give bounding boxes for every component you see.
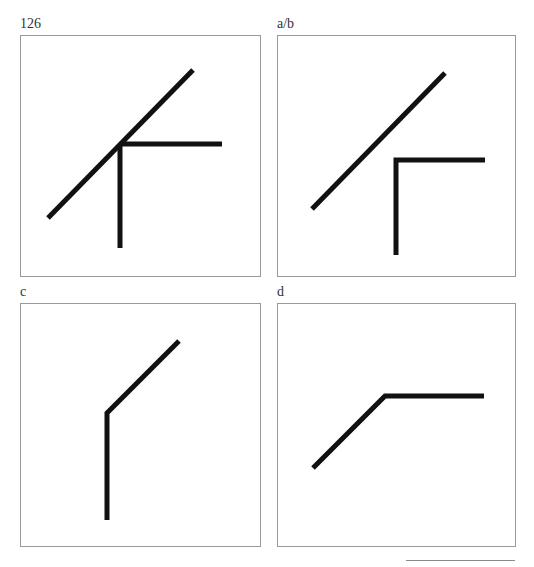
- panel-label-c: c: [20, 285, 26, 299]
- panel-126-frame: [20, 35, 261, 277]
- footer-rule: [406, 560, 515, 561]
- panel-label-d: d: [277, 285, 284, 299]
- panel-c-frame: [20, 303, 261, 547]
- panel-label-a-b: a/b: [277, 17, 294, 31]
- page-number: 126: [20, 17, 41, 31]
- panel-d-frame: [277, 303, 516, 547]
- panel-a-b-frame: [277, 35, 516, 277]
